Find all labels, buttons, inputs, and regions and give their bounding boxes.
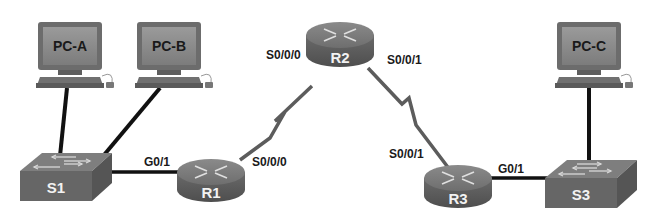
r1-g01-label: G0/1 (144, 155, 170, 169)
interface-labels: G0/1 S0/0/0 S0/0/0 S0/0/1 S0/0/1 G0/1 (144, 48, 524, 176)
pc-icon (36, 22, 114, 88)
router-r2-device[interactable]: R2 (306, 22, 374, 67)
router-r1-device[interactable]: R1 (177, 159, 245, 202)
switch-s3-device[interactable]: S3 (545, 160, 637, 208)
link-pcb-s1 (104, 88, 160, 155)
pc-a-device[interactable]: PC-A (36, 22, 114, 88)
r3-g01-label: G0/1 (498, 162, 524, 176)
pc-b-device[interactable]: PC-B (135, 22, 213, 88)
pc-icon (135, 22, 213, 88)
pc-c-device[interactable]: PC-C (555, 22, 633, 88)
switch-icon (20, 153, 112, 201)
router-r2-label: R2 (330, 49, 349, 66)
pc-c-label: PC-C (572, 38, 606, 54)
r2-s000-label: S0/0/0 (266, 48, 301, 62)
switch-icon (545, 160, 637, 208)
pc-icon (555, 22, 633, 88)
r2-s001-label: S0/0/1 (387, 53, 422, 67)
r3-s001-label: S0/0/1 (389, 147, 424, 161)
router-r1-label: R1 (201, 184, 220, 201)
router-r3-device[interactable]: R3 (424, 165, 492, 208)
r1-s000-label: S0/0/0 (252, 155, 287, 169)
switch-s1-device[interactable]: S1 (20, 153, 112, 201)
switch-s3-label: S3 (572, 186, 590, 203)
switch-s1-label: S1 (47, 179, 65, 196)
pc-b-label: PC-B (152, 38, 186, 54)
link-pca-s1 (60, 88, 67, 156)
router-r3-label: R3 (448, 190, 467, 207)
link-r1-r2-serial (240, 86, 312, 160)
pc-a-label: PC-A (53, 38, 87, 54)
network-topology-diagram: PC-A PC-B PC-C (0, 0, 658, 215)
